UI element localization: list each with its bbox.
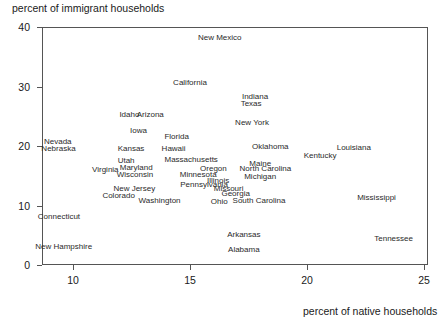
data-point-label: Oklahoma (252, 143, 288, 151)
data-point-label: Florida (164, 133, 188, 141)
x-tick-mark (307, 265, 308, 270)
data-point-label: New York (235, 119, 269, 127)
data-point-label: Kansas (118, 145, 145, 153)
data-point-label: Colorado (102, 192, 134, 200)
data-point-label: Michigan (244, 173, 276, 181)
y-tick-mark (37, 27, 42, 28)
data-point-label: Washington (139, 197, 181, 205)
data-point-label: Massachusetts (164, 156, 217, 164)
data-point-label: Tennessee (374, 235, 413, 243)
plot-title: percent of immigrant households (12, 2, 164, 14)
x-tick-label: 20 (292, 274, 322, 286)
data-point-label: New Mexico (198, 34, 242, 42)
scatter-plot-figure: percent of immigrant households 01020304… (0, 0, 448, 328)
x-tick-label: 15 (175, 274, 205, 286)
data-point-label: Kentucky (304, 152, 337, 160)
data-point-label: Arizona (137, 111, 164, 119)
y-tick-label: 10 (6, 200, 30, 212)
data-point-label: New Hampshire (35, 243, 92, 251)
data-point-label: Iowa (130, 127, 147, 135)
data-point-label: Alabama (228, 246, 260, 254)
y-tick-mark (37, 265, 42, 266)
data-point-label: Louisiana (337, 144, 371, 152)
y-tick-label: 0 (6, 259, 30, 271)
y-tick-label: 20 (6, 140, 30, 152)
data-point-label: Arkansas (227, 231, 260, 239)
data-point-label: Nebraska (41, 145, 75, 153)
x-tick-mark (73, 265, 74, 270)
data-point-label: Texas (241, 100, 262, 108)
data-point-label: Mississippi (357, 194, 396, 202)
data-point-label: Ohio (211, 198, 228, 206)
data-point-label: South Carolina (233, 197, 286, 205)
x-axis-label: percent of native households (303, 305, 437, 317)
x-tick-mark (424, 265, 425, 270)
data-point-label: Connecticut (38, 213, 80, 221)
y-tick-mark (37, 87, 42, 88)
y-tick-label: 30 (6, 81, 30, 93)
y-tick-mark (37, 206, 42, 207)
y-tick-label: 40 (6, 21, 30, 33)
data-point-label: California (173, 79, 207, 87)
x-tick-mark (190, 265, 191, 270)
data-point-label: Hawaii (162, 145, 186, 153)
x-tick-label: 10 (58, 274, 88, 286)
x-tick-label: 25 (409, 274, 439, 286)
data-point-label: Wisconsin (117, 171, 153, 179)
data-point-label: Virginia (92, 166, 119, 174)
